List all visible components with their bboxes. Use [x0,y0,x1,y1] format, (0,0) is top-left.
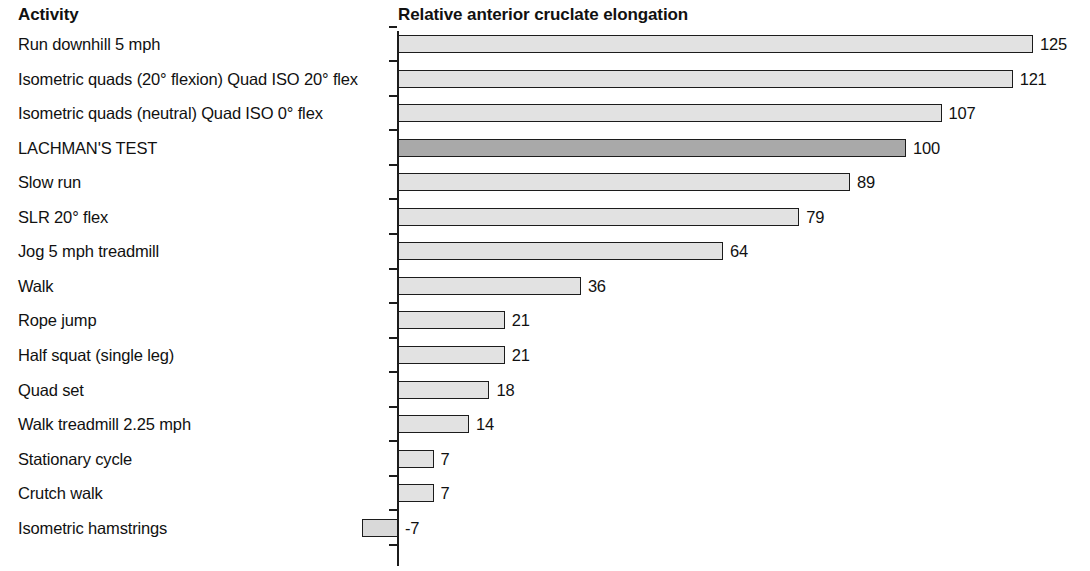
axis-tick [389,233,397,235]
axis-tick [389,544,397,546]
bar-value-label: 21 [512,346,530,364]
bar [398,381,489,399]
bar-value-label: 21 [512,311,530,329]
bar [398,311,505,329]
axis-tick [389,26,397,28]
bar [362,519,398,537]
axis-tick [389,475,397,477]
bar [398,346,505,364]
bar-value-label: 125 [1040,35,1067,53]
bar [398,208,799,226]
bar-value-label: 7 [441,450,450,468]
bar [398,35,1033,53]
axis-tick [389,371,397,373]
bar-value-label: 89 [857,173,875,191]
axis-tick [389,440,397,442]
bar-value-label: 100 [913,139,940,157]
axis-tick [389,509,397,511]
bar [398,484,434,502]
axis-tick [389,95,397,97]
bar-chart-figure: Activity Relative anterior cruclate elon… [0,0,1090,571]
axis-tick [389,302,397,304]
bar-value-label: 64 [730,242,748,260]
bar-value-label: 7 [441,484,450,502]
bar [398,139,906,157]
bar [398,450,434,468]
bar-value-label: 14 [476,415,494,433]
bar-value-label: 79 [806,208,824,226]
bar [398,104,942,122]
axis-tick [389,337,397,339]
bar-value-label: -7 [405,519,419,537]
axis-tick [389,60,397,62]
axis-tick [389,198,397,200]
bar [398,173,850,191]
bar [398,242,723,260]
bar [398,277,581,295]
bar-value-label: 107 [949,104,976,122]
bar [398,70,1013,88]
bar-value-label: 36 [588,277,606,295]
axis-tick [389,129,397,131]
bar-value-label: 18 [496,381,514,399]
axis-tick [389,406,397,408]
bar [398,415,469,433]
bar-value-label: 121 [1020,70,1047,88]
axis-tick [389,268,397,270]
plot-area: 125121107100897964362121181477-7 [0,0,1090,571]
axis-tick [389,164,397,166]
